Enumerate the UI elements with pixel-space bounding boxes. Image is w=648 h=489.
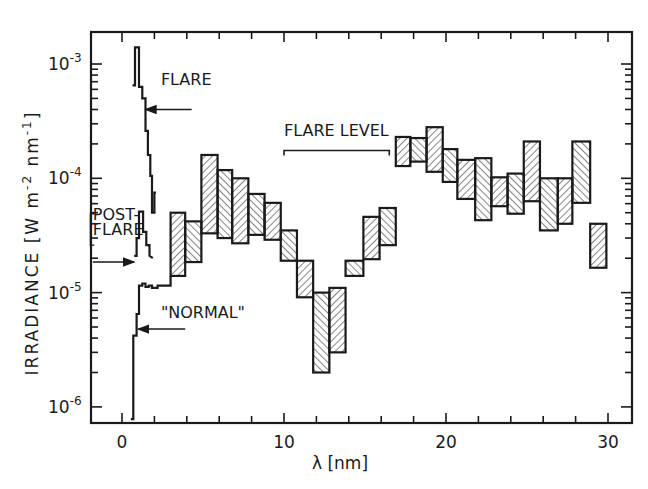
range-bar: [265, 203, 281, 240]
range-bar: [171, 213, 186, 276]
range-bar: [558, 178, 573, 223]
y-tick-label: 10-3: [48, 51, 82, 74]
svg-text:IRRADIANCE [W m-2 nm-1]: IRRADIANCE [W m-2 nm-1]: [20, 111, 42, 376]
range-bar: [218, 170, 233, 238]
annotation-label: FLARE: [93, 220, 144, 239]
range-bar: [396, 137, 411, 166]
range-bar: [363, 217, 379, 259]
flare-level-bracket: [284, 151, 389, 156]
range-bar: [297, 261, 313, 298]
x-tick-label: 10: [273, 432, 295, 452]
annotation-label: "NORMAL": [161, 303, 245, 322]
range-bar: [540, 178, 558, 230]
x-tick-label: 20: [435, 432, 457, 452]
range-bar: [185, 221, 201, 262]
range-bar: [572, 141, 590, 202]
range-bar: [380, 208, 396, 245]
y-tick-label: 10-5: [48, 280, 82, 303]
range-bar: [475, 158, 491, 220]
y-tick-label: 10-4: [48, 165, 82, 188]
range-bar: [491, 177, 507, 206]
range-bar: [281, 230, 297, 260]
y-axis-label: IRRADIANCE [W m-2 nm-1]: [20, 111, 42, 376]
range-bar: [524, 141, 540, 201]
range-bar: [313, 293, 329, 373]
x-tick-label: 0: [117, 432, 128, 452]
x-axis-label: λ [nm]: [312, 453, 368, 473]
irradiance-range-bars: [171, 127, 607, 372]
range-bar: [410, 138, 426, 162]
range-bar: [508, 174, 524, 214]
normal-spectrum-line: [131, 276, 171, 419]
range-bar: [457, 160, 475, 199]
range-bar: [443, 149, 458, 182]
range-bar: [248, 194, 264, 235]
y-tick-label: 10-6: [48, 394, 82, 417]
range-bar: [590, 224, 606, 268]
range-bar: [427, 127, 443, 172]
range-bar: [232, 178, 248, 243]
range-bar: [346, 261, 364, 276]
x-tick-label: 30: [597, 432, 619, 452]
range-bar: [329, 288, 345, 352]
annotation-label: FLARE: [161, 70, 212, 89]
flare-spectrum-line: [133, 47, 157, 212]
irradiance-chart: 010203010-310-410-510-6 FLAREFLARE LEVEL…: [0, 0, 648, 489]
annotation-label: FLARE LEVEL: [284, 121, 389, 140]
range-bar: [201, 155, 217, 233]
